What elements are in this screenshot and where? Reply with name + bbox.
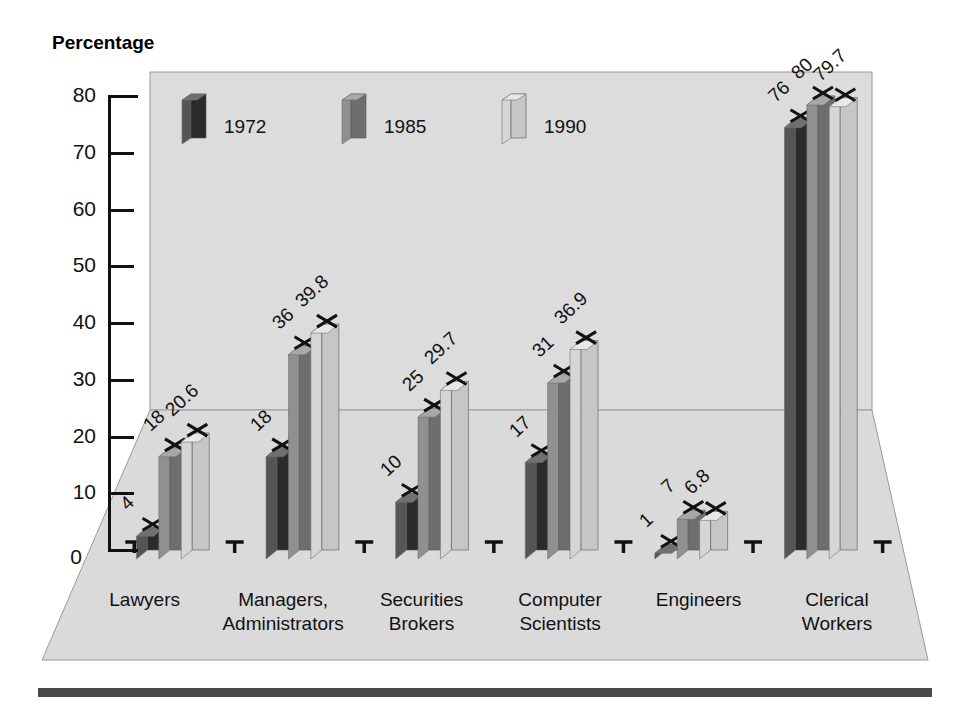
y-axis-tick-label: 70 <box>50 140 96 164</box>
bar-1990-1 <box>311 324 339 559</box>
legend-label-1990: 1990 <box>544 116 586 138</box>
y-axis-tick <box>108 265 134 268</box>
y-axis-tick-label: 40 <box>50 310 96 334</box>
legend-label-1985: 1985 <box>384 116 426 138</box>
category-label-line: Computer <box>518 589 601 610</box>
bar-1990-5 <box>829 98 857 559</box>
category-label-line: Scientists <box>519 613 600 634</box>
legend-swatch-1972 <box>180 88 214 146</box>
y-axis-tick-label: 20 <box>50 424 96 448</box>
y-axis-tick <box>108 322 134 325</box>
category-label-line: Lawyers <box>109 589 180 610</box>
y-axis-tick-label: 80 <box>50 83 96 107</box>
category-label-line: Engineers <box>656 589 742 610</box>
y-axis-tick-label: 0 <box>36 545 82 569</box>
legend-label-1972: 1972 <box>224 116 266 138</box>
y-axis-tick-label: 10 <box>50 480 96 504</box>
y-axis-tick <box>108 209 134 212</box>
y-axis-tick-label: 30 <box>50 367 96 391</box>
y-axis-tick <box>108 379 134 382</box>
y-axis-tick <box>108 95 138 98</box>
legend-swatch-1985 <box>340 88 374 146</box>
bottom-divider-rule <box>38 688 932 697</box>
chart-legend: 197219851990 <box>180 88 600 148</box>
y-axis-tick <box>108 549 138 552</box>
y-axis-tick <box>108 436 134 439</box>
bar-1990-2 <box>440 381 468 559</box>
bar-1990-0 <box>181 433 209 559</box>
y-axis-tick-label: 60 <box>50 197 96 221</box>
category-label-line: Clerical <box>805 589 868 610</box>
category-label-line: Brokers <box>389 613 454 634</box>
category-label-5: ClericalWorkers <box>747 588 927 636</box>
category-label-line: Workers <box>802 613 872 634</box>
legend-swatch-1990 <box>500 88 534 146</box>
bar-1990-3 <box>570 341 598 559</box>
category-label-line: Securities <box>380 589 463 610</box>
y-axis-tick <box>108 152 134 155</box>
y-axis-tick-label: 50 <box>50 253 96 277</box>
category-label-line: Administrators <box>222 613 343 634</box>
chart-canvas: Percentage 01020304050607080 19721985199… <box>0 0 977 708</box>
category-label-line: Managers, <box>238 589 328 610</box>
